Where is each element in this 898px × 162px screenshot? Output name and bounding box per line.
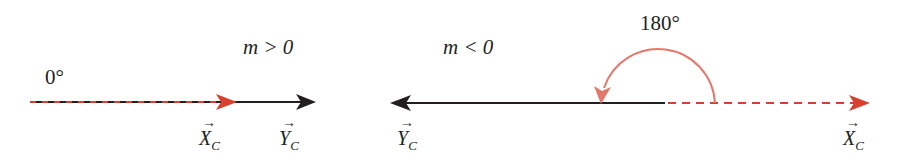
- diagram-canvas: [0, 0, 898, 162]
- condition-label-negative: m < 0: [443, 37, 493, 58]
- vector-arrow-icon: →: [846, 116, 860, 130]
- angle-arc-180: [594, 49, 715, 104]
- vector-arrow-icon: →: [400, 116, 414, 130]
- right-xc-vector: [668, 95, 870, 111]
- vector-label-yc-right: → YC: [397, 128, 417, 148]
- vector-label-yc-left: → YC: [279, 128, 299, 148]
- vector-label-xc-right: → XC: [843, 128, 864, 148]
- condition-label-positive: m > 0: [243, 37, 293, 58]
- angle-label-0: 0°: [45, 67, 64, 88]
- left-yc-vector: [30, 94, 316, 110]
- vector-arrow-icon: →: [282, 116, 296, 130]
- right-yc-vector: [390, 95, 665, 111]
- angle-label-180: 180°: [640, 13, 680, 34]
- vector-label-xc-left: → XC: [199, 128, 220, 148]
- vector-arrow-icon: →: [202, 116, 216, 130]
